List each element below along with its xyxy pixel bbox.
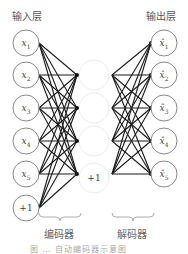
hidden-node-1 [79,60,109,90]
figure-caption: 图 … 自动编码器示意图 [30,243,127,254]
input-bias-node: +1 [13,202,39,214]
output-node-x4-hat: x̂4 [151,135,177,151]
decoder-label: 解码器 [117,226,147,241]
encoder-arrowheads [75,73,79,176]
input-layer-title: 输入层 [12,8,42,23]
output-layer-title: 输出层 [146,8,176,23]
decoder-edges [112,43,151,174]
encoder-brace [39,213,81,221]
input-layer [13,30,39,221]
input-node-x3: x3 [13,102,39,118]
input-node-x2: x2 [13,69,39,85]
encoder-label: 编码器 [44,226,74,241]
output-node-x2-hat: x̂2 [151,69,177,85]
output-node-x1-hat: x̂1 [151,37,177,53]
hidden-node-3 [79,126,109,156]
decoder-brace [112,213,154,221]
encoder-edges [39,43,77,208]
hidden-node-2 [79,93,109,123]
output-node-x5-hat: x̂5 [151,168,177,184]
input-node-x5: x5 [13,168,39,184]
input-node-x4: x4 [13,135,39,151]
hidden-bias-label: +1 [81,172,107,184]
input-node-x1: x1 [13,37,39,53]
output-node-x3-hat: x̂3 [151,102,177,118]
